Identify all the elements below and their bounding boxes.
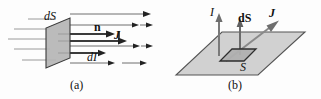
physics-figure: dS n J dI (a)	[0, 0, 321, 99]
caption-b: (b)	[228, 79, 242, 91]
flow-lines-right	[70, 11, 153, 65]
panel-a: dS n J dI (a)	[0, 0, 160, 99]
panel-b: I dS J S (b)	[160, 0, 321, 99]
label-J-current-density: J	[114, 29, 120, 41]
label-I-total-current: I	[210, 6, 214, 18]
label-S-surface: S	[240, 61, 246, 73]
label-dS-vector-element: dS	[238, 12, 251, 24]
label-dI-current-element: dI	[87, 51, 97, 63]
surface-element-plane	[46, 18, 70, 68]
label-J-current-density: J	[269, 7, 275, 19]
label-n-normal-vector: n	[94, 21, 101, 33]
caption-a: (a)	[70, 79, 83, 91]
label-dS-surface-element: dS	[44, 10, 56, 22]
